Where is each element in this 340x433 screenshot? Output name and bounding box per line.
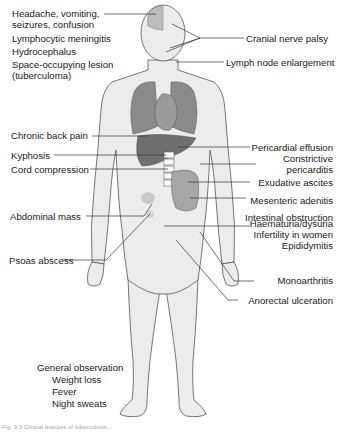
label-lesion-line2: (tuberculoma): [12, 70, 113, 81]
label-epididymitis: Epididymitis: [250, 240, 333, 251]
brain-region: [148, 6, 164, 30]
label-pericardial-line3: pericarditis: [252, 164, 333, 175]
label-anorectal-ulceration: Anorectal ulceration: [248, 295, 333, 306]
label-chronic-back-pain: Chronic back pain: [11, 130, 88, 141]
label-exudative-ascites: Exudative ascites: [258, 177, 333, 188]
label-cord-compression: Cord compression: [11, 164, 89, 175]
label-genitourinary: Haematuria/dysuria Infertility in women …: [250, 218, 333, 251]
label-pericardial-line2: Constrictive: [252, 153, 333, 164]
label-mesenteric-adenitis: Mesenteric adenitis: [250, 195, 333, 206]
label-kyphosis: Kyphosis: [11, 150, 50, 161]
label-abdominal-mass: Abdominal mass: [10, 211, 81, 222]
label-hydrocephalus: Hydrocephalus: [12, 46, 76, 57]
figure-caption: Fig. 9.3 Clinical features of tuberculos…: [2, 424, 112, 430]
label-pericardial-line1: Pericardial effusion: [252, 142, 333, 153]
abdominal-mass-shading: [141, 192, 155, 204]
label-lesion-line1: Space-occupying lesion: [12, 59, 113, 70]
general-item-weight-loss: Weight loss: [52, 374, 101, 385]
label-headache-line1: Headache, vomiting,: [12, 8, 99, 19]
label-psoas-abscess: Psoas abscess: [9, 255, 74, 266]
label-lymph-node: Lymph node enlargement: [226, 57, 334, 68]
label-meningitis: Lymphocytic meningitis: [12, 33, 111, 44]
label-space-occupying-lesion: Space-occupying lesion (tuberculoma): [12, 59, 113, 81]
heart: [155, 94, 177, 131]
label-headache-line2: seizures, confusion: [12, 19, 99, 30]
general-item-fever: Fever: [52, 386, 77, 397]
label-headache: Headache, vomiting, seizures, confusion: [12, 8, 99, 30]
label-haematuria: Haematuria/dysuria: [250, 218, 333, 229]
general-item-night-sweats: Night sweats: [52, 398, 107, 409]
label-monoarthritis: Monoarthritis: [278, 275, 333, 286]
label-cranial-nerve-palsy: Cranial nerve palsy: [246, 33, 328, 44]
intestines: [172, 170, 199, 211]
label-pericardial: Pericardial effusion Constrictive perica…: [252, 142, 333, 175]
general-observation-heading: General observation: [37, 362, 123, 373]
label-infertility: Infertility in women: [250, 229, 333, 240]
